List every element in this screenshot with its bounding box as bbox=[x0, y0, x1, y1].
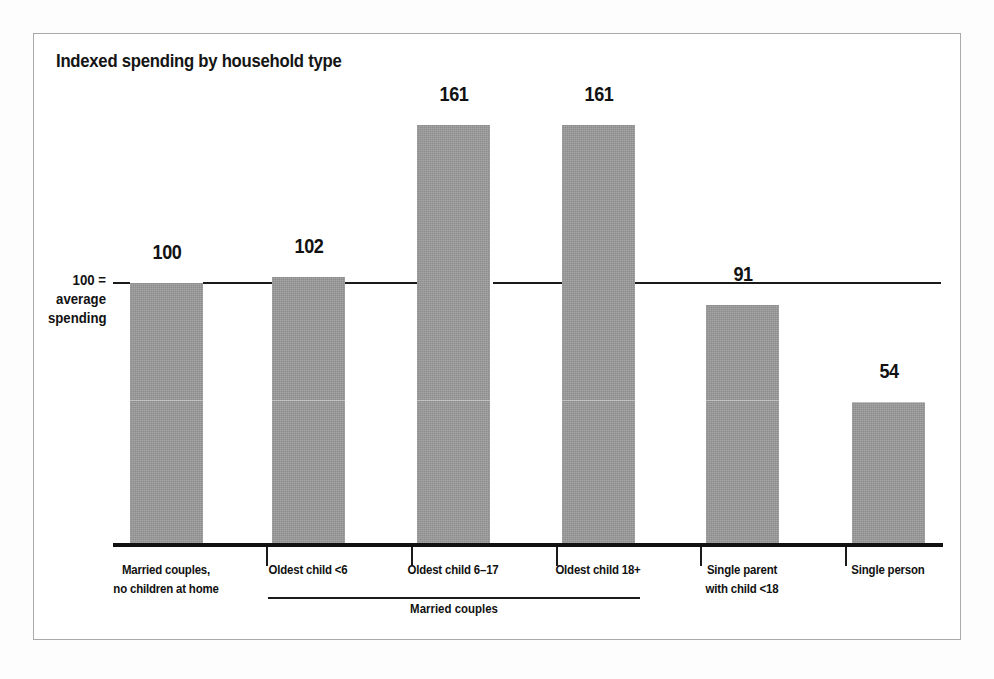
bar-seam bbox=[852, 402, 925, 403]
group-bracket-line bbox=[268, 597, 640, 599]
y-axis-caption: 100 = average spending bbox=[48, 270, 106, 327]
bar-oldest-child-6-17 bbox=[417, 125, 490, 543]
y-axis-caption-line-1: 100 = bbox=[48, 270, 106, 289]
reference-line-segment bbox=[635, 282, 941, 284]
category-label-oldest-child-under-6: Oldest child <6 bbox=[246, 560, 369, 579]
bar-value-label: 91 bbox=[708, 262, 779, 286]
reference-line-segment bbox=[493, 282, 562, 284]
plot-area: 100 = average spending 100 102 bbox=[0, 0, 994, 679]
category-label-line: Oldest child 18+ bbox=[536, 560, 659, 579]
reference-line-segment bbox=[113, 282, 130, 284]
category-label-line: Oldest child 6–17 bbox=[391, 560, 514, 579]
bar-value-label: 54 bbox=[854, 359, 925, 383]
bar-oldest-child-18-plus bbox=[562, 125, 635, 543]
bar-married-no-children bbox=[130, 283, 203, 543]
category-label-line: Married couples, bbox=[104, 560, 227, 579]
bar-value-label: 100 bbox=[132, 240, 203, 264]
bar-seam bbox=[417, 400, 490, 401]
group-label-married-couples: Married couples bbox=[290, 601, 617, 616]
bar-seam bbox=[272, 400, 345, 401]
chart-page: Indexed spending by household type 100 =… bbox=[0, 0, 994, 679]
category-label-line: with child <18 bbox=[680, 579, 803, 598]
bar-single-person bbox=[852, 402, 925, 543]
category-label-single-parent: Single parent with child <18 bbox=[680, 560, 803, 598]
category-label-line: Oldest child <6 bbox=[246, 560, 369, 579]
bar-value-label: 102 bbox=[274, 234, 345, 258]
category-label-married-no-children: Married couples, no children at home bbox=[104, 560, 227, 598]
x-axis-baseline bbox=[113, 543, 943, 547]
category-label-oldest-child-6-17: Oldest child 6–17 bbox=[391, 560, 514, 579]
y-axis-caption-line-2: average bbox=[48, 289, 106, 308]
bar-seam bbox=[706, 400, 779, 401]
bar-seam bbox=[562, 400, 635, 401]
category-label-line: Single person bbox=[826, 560, 949, 579]
bar-value-label: 161 bbox=[564, 82, 635, 106]
bar-seam bbox=[130, 400, 203, 401]
y-axis-caption-line-3: spending bbox=[48, 308, 106, 327]
bar-oldest-child-under-6 bbox=[272, 277, 345, 543]
bar-single-parent-child-under-18 bbox=[706, 305, 779, 543]
category-label-oldest-child-18-plus: Oldest child 18+ bbox=[536, 560, 659, 579]
category-label-line: no children at home bbox=[104, 579, 227, 598]
category-label-line: Single parent bbox=[680, 560, 803, 579]
bar-value-label: 161 bbox=[419, 82, 490, 106]
category-label-single-person: Single person bbox=[826, 560, 949, 579]
